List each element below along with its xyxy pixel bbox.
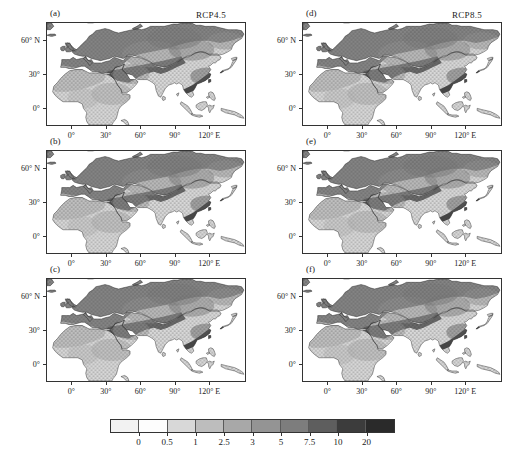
colorbar (110, 419, 395, 433)
y-axis-tick (43, 74, 46, 75)
x-axis-tick (106, 382, 107, 385)
colorbar-segment (224, 420, 252, 432)
x-axis-label: 120° E (454, 259, 476, 268)
colorbar-segment (366, 420, 394, 432)
x-axis-tick (71, 126, 72, 129)
y-axis-tick (299, 296, 302, 297)
y-axis-label: 30° (29, 326, 40, 335)
panel-b: (b)60° N30°0°0°30°60°90°120° E (46, 150, 246, 254)
x-axis-tick (431, 382, 432, 385)
y-axis-tick (299, 168, 302, 169)
y-axis-label: 60° N (277, 292, 296, 301)
y-axis-label: 60° N (21, 164, 40, 173)
y-axis-label: 30° (285, 198, 296, 207)
x-axis-tick (465, 254, 466, 257)
x-axis-label: 60° (391, 387, 402, 396)
land-shading-map (47, 151, 245, 253)
x-axis-tick (362, 254, 363, 257)
colorbar-tick (196, 433, 197, 436)
x-axis-label: 30° (356, 387, 367, 396)
x-axis-tick (327, 126, 328, 129)
colorbar-tick (281, 433, 282, 436)
colorbar-tick-label: 7.5 (304, 437, 315, 447)
x-axis-tick (140, 254, 141, 257)
x-axis-tick (396, 254, 397, 257)
x-axis-label: 90° (425, 131, 436, 140)
land-shading-map (47, 279, 245, 381)
x-axis-label: 0° (324, 131, 331, 140)
x-axis-label: 60° (135, 259, 146, 268)
x-axis-tick (209, 382, 210, 385)
x-axis-tick (465, 382, 466, 385)
x-axis-label: 60° (135, 387, 146, 396)
y-axis-tick (43, 108, 46, 109)
x-axis-label: 120° E (198, 259, 220, 268)
x-axis-tick (396, 126, 397, 129)
x-axis-label: 60° (135, 131, 146, 140)
colorbar-segment (139, 420, 167, 432)
colorbar-tick (338, 433, 339, 436)
colorbar-tick (167, 433, 168, 436)
x-axis-tick (106, 126, 107, 129)
colorbar-segment (309, 420, 337, 432)
x-axis-label: 0° (68, 131, 75, 140)
panel-f: (f)60° N30°0°0°30°60°90°120° E (302, 278, 502, 382)
x-axis-label: 30° (356, 131, 367, 140)
map-plot-area (302, 278, 502, 382)
y-axis-label: 60° N (21, 292, 40, 301)
y-axis-tick (43, 202, 46, 203)
y-axis-label: 0° (289, 359, 296, 368)
x-axis-tick (71, 254, 72, 257)
x-axis-label: 90° (169, 131, 180, 140)
x-axis-tick (140, 126, 141, 129)
colorbar-tick-label: 1 (193, 437, 198, 447)
x-axis-label: 90° (425, 387, 436, 396)
land-shading-map (47, 23, 245, 125)
colorbar-tick-label: 0 (136, 437, 141, 447)
x-axis-tick (175, 254, 176, 257)
colorbar-tick (139, 433, 140, 436)
colorbar-tick (310, 433, 311, 436)
x-axis-tick (209, 254, 210, 257)
colorbar-tick-label: 0.5 (161, 437, 172, 447)
y-axis-tick (299, 108, 302, 109)
y-axis-tick (299, 40, 302, 41)
panel-a: (a)60° N30°0°0°30°60°90°120° E (46, 22, 246, 126)
colorbar-tick-label: 20 (362, 437, 371, 447)
x-axis-tick (140, 382, 141, 385)
x-axis-tick (209, 126, 210, 129)
y-axis-tick (43, 40, 46, 41)
x-axis-tick (396, 382, 397, 385)
colorbar-tick-label: 3 (250, 437, 255, 447)
panel-label: (c) (50, 264, 60, 274)
y-axis-tick (43, 168, 46, 169)
panel-d: (d)60° N30°0°0°30°60°90°120° E (302, 22, 502, 126)
colorbar-segment (337, 420, 365, 432)
map-plot-area (302, 150, 502, 254)
x-axis-label: 120° E (454, 387, 476, 396)
colorbar-tick (253, 433, 254, 436)
y-axis-tick (299, 330, 302, 331)
y-axis-tick (299, 202, 302, 203)
y-axis-tick (43, 296, 46, 297)
map-plot-area (46, 150, 246, 254)
colorbar-segment (252, 420, 280, 432)
x-axis-label: 30° (100, 387, 111, 396)
panel-label: (d) (306, 8, 317, 18)
x-axis-tick (431, 126, 432, 129)
column-title-rcp85: RCP8.5 (452, 10, 482, 20)
y-axis-tick (43, 236, 46, 237)
column-title-rcp45: RCP4.5 (196, 10, 226, 20)
land-shading-map (303, 151, 501, 253)
x-axis-label: 90° (169, 259, 180, 268)
x-axis-label: 120° E (198, 387, 220, 396)
x-axis-tick (175, 126, 176, 129)
colorbar-segment (281, 420, 309, 432)
x-axis-label: 30° (100, 259, 111, 268)
colorbar-tick-label: 2.5 (218, 437, 229, 447)
panel-e: (e)60° N30°0°0°30°60°90°120° E (302, 150, 502, 254)
y-axis-label: 60° N (277, 164, 296, 173)
y-axis-tick (299, 74, 302, 75)
colorbar-tick (224, 433, 225, 436)
x-axis-label: 90° (169, 387, 180, 396)
